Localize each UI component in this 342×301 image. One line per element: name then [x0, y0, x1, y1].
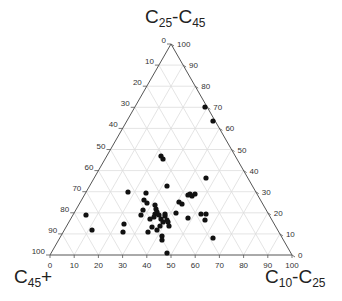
tick-label-bottom: 80: [239, 261, 248, 270]
data-point: [83, 212, 88, 217]
data-point: [147, 216, 152, 221]
data-point: [149, 224, 154, 229]
grid-line: [62, 234, 74, 255]
data-point: [121, 221, 126, 226]
grid-line: [123, 107, 208, 255]
tick-label-right: 40: [250, 167, 259, 176]
tick-label-bottom: 20: [94, 261, 103, 270]
tick-label-left: 80: [60, 205, 69, 214]
data-point: [179, 201, 184, 206]
data-point: [159, 237, 164, 242]
data-point: [89, 227, 94, 232]
tick-label-right: 50: [238, 146, 247, 155]
tick-label-right: 0: [298, 251, 303, 260]
data-point: [198, 211, 203, 216]
axis-label-left: C45+: [14, 266, 52, 290]
data-point: [138, 212, 143, 217]
tick-label-right: 80: [201, 82, 210, 91]
tick-label-bottom: 60: [191, 261, 200, 270]
data-point: [203, 211, 208, 216]
tick-label-left: 100: [32, 247, 46, 256]
tick-label-right: 20: [274, 209, 283, 218]
tick-label-right: 10: [286, 230, 295, 239]
data-point: [166, 223, 171, 228]
data-point: [162, 211, 167, 216]
data-point: [202, 104, 207, 109]
tick-label-bottom: 10: [70, 261, 79, 270]
tick-label-right: 60: [225, 124, 234, 133]
data-point: [202, 217, 207, 222]
tick-label-right: 100: [177, 40, 191, 49]
tick-label-left: 90: [48, 226, 57, 235]
tick-label-right: 30: [262, 188, 271, 197]
data-point: [164, 183, 169, 188]
tick-label-left: 70: [72, 184, 81, 193]
tick-label-left: 10: [145, 57, 154, 66]
tick-label-left: 20: [133, 78, 142, 87]
grid-line: [268, 234, 280, 255]
data-point: [185, 215, 190, 220]
tick-label-bottom: 50: [167, 261, 176, 270]
ternary-plot: 0100010901020802030703040604050505060406…: [0, 0, 342, 301]
data-point: [192, 191, 197, 196]
data-point: [145, 229, 150, 234]
grid-line: [159, 65, 268, 255]
data-point: [160, 156, 165, 161]
data-point: [173, 210, 178, 215]
data-point: [203, 175, 208, 180]
data-point: [210, 118, 215, 123]
tick-label-bottom: 30: [118, 261, 127, 270]
axis-label-top: C25-C45: [145, 6, 206, 30]
data-point: [154, 227, 159, 232]
tick-label-bottom: 40: [142, 261, 151, 270]
data-point: [125, 189, 130, 194]
data-point: [120, 229, 125, 234]
grid-line: [86, 192, 122, 255]
data-point: [210, 235, 215, 240]
tick-label-right: 70: [213, 103, 222, 112]
tick-label-left: 40: [109, 120, 118, 129]
data-point: [144, 200, 149, 205]
axis-label-right: C10-C25: [265, 266, 326, 290]
tick-label-left: 50: [97, 142, 106, 151]
data-point: [143, 190, 148, 195]
tick-label-left: 0: [162, 36, 167, 45]
tick-label-left: 60: [84, 163, 93, 172]
grid-line: [219, 192, 255, 255]
tick-label-right: 90: [189, 61, 198, 70]
tick-mark: [292, 255, 295, 257]
tick-label-left: 30: [121, 99, 130, 108]
data-point: [164, 250, 169, 255]
data-point: [140, 207, 145, 212]
tick-label-bottom: 70: [215, 261, 224, 270]
